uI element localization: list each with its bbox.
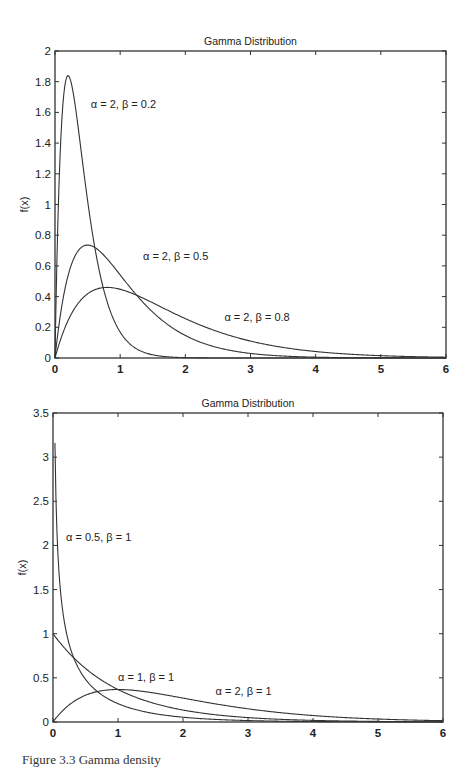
y-tick-label: 0.5 — [33, 672, 49, 684]
y-tick-label: 0.6 — [35, 260, 51, 272]
y-tick-label: 1.5 — [33, 584, 49, 596]
y-axis-label: f(x) — [18, 197, 30, 213]
y-tick-label: 2.5 — [33, 495, 49, 507]
x-tick-label: 4 — [310, 727, 317, 739]
y-tick-label: 3.5 — [33, 407, 49, 419]
y-tick-label: 1.6 — [35, 106, 51, 118]
series-label: α = 2, β = 0.5 — [143, 250, 208, 262]
x-tick-label: 2 — [180, 727, 186, 739]
chart-2: Gamma Distributionf(x)012345600.511.522.… — [16, 397, 446, 739]
series-label: α = 2, β = 1 — [216, 685, 272, 697]
chart-1: Gamma Distributionf(x)012345600.20.40.60… — [18, 35, 449, 375]
x-tick-label: 5 — [375, 727, 382, 739]
y-tick-label: 1.2 — [35, 168, 51, 180]
figure-canvas: Gamma Distributionf(x)012345600.20.40.60… — [0, 0, 470, 772]
y-tick-label: 2 — [45, 45, 51, 57]
figure-caption: Figure 3.3 Gamma density — [22, 752, 161, 768]
x-tick-label: 4 — [312, 363, 319, 375]
x-tick-label: 6 — [440, 727, 446, 739]
chart-title: Gamma Distribution — [204, 35, 297, 47]
y-tick-label: 0.2 — [35, 321, 51, 333]
x-tick-label: 3 — [245, 727, 251, 739]
series-label: α = 1, β = 1 — [118, 671, 174, 683]
series-label: α = 2, β = 0.2 — [91, 98, 156, 110]
y-tick-label: 0 — [45, 352, 51, 364]
y-tick-label: 0.4 — [35, 291, 52, 303]
y-tick-label: 3 — [43, 451, 49, 463]
y-tick-label: 2 — [43, 539, 49, 551]
series-curve — [55, 443, 443, 722]
x-tick-label: 6 — [443, 363, 449, 375]
chart-title: Gamma Distribution — [202, 397, 295, 409]
x-tick-label: 2 — [182, 363, 188, 375]
x-tick-label: 0 — [52, 363, 58, 375]
y-axis-label: f(x) — [16, 560, 28, 576]
y-tick-label: 1.4 — [35, 137, 52, 149]
x-tick-label: 3 — [247, 363, 253, 375]
x-tick-label: 0 — [50, 727, 56, 739]
x-tick-label: 5 — [378, 363, 385, 375]
y-tick-label: 0 — [43, 716, 49, 728]
y-tick-label: 1 — [45, 199, 51, 211]
y-tick-label: 1.8 — [35, 76, 51, 88]
x-tick-label: 1 — [117, 363, 124, 375]
plot-frame — [53, 413, 443, 722]
series-label: α = 2, β = 0.8 — [224, 311, 289, 323]
series-label: α = 0.5, β = 1 — [66, 531, 131, 543]
x-tick-label: 1 — [115, 727, 122, 739]
y-tick-label: 0.8 — [35, 229, 51, 241]
y-tick-label: 1 — [43, 628, 49, 640]
